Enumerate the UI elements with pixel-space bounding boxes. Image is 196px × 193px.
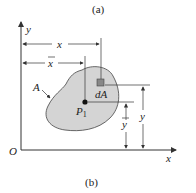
dim-y-label: y [139,110,145,122]
dim-xbar-label: x [47,57,53,69]
area-label: A [32,81,40,93]
area-element [97,79,104,86]
dim-ybar-label: y [121,118,127,130]
caption-a: (a) [92,3,105,16]
area-leader [42,90,50,98]
x-axis-label: x [165,152,171,164]
caption-b: (b) [85,176,98,189]
dim-x-label: x [56,38,62,50]
centroid-point [82,99,87,104]
area-shape [46,67,119,131]
element-label: dA [95,88,108,100]
y-axis-label: y [25,23,31,35]
centroid-diagram: (a) y x O x x dA P1 A y y (b) [0,0,196,193]
origin-label: O [9,145,17,157]
